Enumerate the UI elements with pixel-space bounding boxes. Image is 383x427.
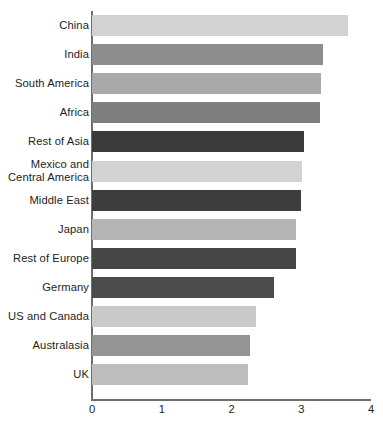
bar-row: China (0, 11, 383, 40)
x-tick-label: 2 (220, 403, 244, 415)
bar (92, 306, 256, 327)
bar-row: Africa (0, 98, 383, 127)
category-label: Middle East (0, 186, 89, 215)
bar-row: US and Canada (0, 302, 383, 331)
category-label: Mexico and Central America (0, 157, 89, 186)
category-label: Japan (0, 215, 89, 244)
bar (92, 335, 250, 356)
category-label: China (0, 11, 89, 40)
x-tick-label: 3 (289, 403, 313, 415)
x-tick-label: 4 (359, 403, 383, 415)
category-label: Rest of Asia (0, 127, 89, 156)
category-label: US and Canada (0, 302, 89, 331)
category-label: South America (0, 69, 89, 98)
bar-row: UK (0, 360, 383, 389)
x-tick-label: 0 (80, 403, 104, 415)
bar (92, 364, 248, 385)
category-label: India (0, 40, 89, 69)
bar (92, 161, 302, 182)
bar-row: South America (0, 69, 383, 98)
bar-row: Middle East (0, 186, 383, 215)
bar (92, 190, 301, 211)
bar-row: Australasia (0, 331, 383, 360)
bar (92, 15, 348, 36)
bar-chart: ChinaIndiaSouth AmericaAfricaRest of Asi… (0, 0, 383, 427)
bar-row: Rest of Asia (0, 127, 383, 156)
bar (92, 248, 296, 269)
bar (92, 44, 323, 65)
bar (92, 219, 296, 240)
bar-row: Japan (0, 215, 383, 244)
category-label: Rest of Europe (0, 244, 89, 273)
bar (92, 73, 321, 94)
bar-row: Mexico and Central America (0, 157, 383, 186)
x-axis-ticks: 01234 (0, 399, 383, 421)
category-label: Australasia (0, 331, 89, 360)
bar-row: Rest of Europe (0, 244, 383, 273)
bar (92, 131, 304, 152)
bar (92, 277, 274, 298)
category-label: Africa (0, 98, 89, 127)
bar-row: India (0, 40, 383, 69)
bar-rows: ChinaIndiaSouth AmericaAfricaRest of Asi… (0, 0, 383, 389)
bar-row: Germany (0, 273, 383, 302)
category-label: UK (0, 360, 89, 389)
x-tick-label: 1 (150, 403, 174, 415)
category-label: Germany (0, 273, 89, 302)
bar (92, 102, 320, 123)
